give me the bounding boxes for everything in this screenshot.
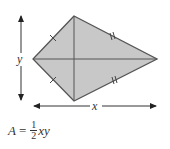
area-formula: A = 1 2 xy xyxy=(8,120,50,141)
formula-rhs: xy xyxy=(38,123,50,139)
x-label: x xyxy=(91,99,98,113)
fraction-denominator: 2 xyxy=(31,131,36,141)
y-label: y xyxy=(16,52,23,66)
formula-fraction: 1 2 xyxy=(30,120,37,141)
formula-equals: = xyxy=(19,123,26,139)
formula-lhs: A xyxy=(8,123,16,139)
